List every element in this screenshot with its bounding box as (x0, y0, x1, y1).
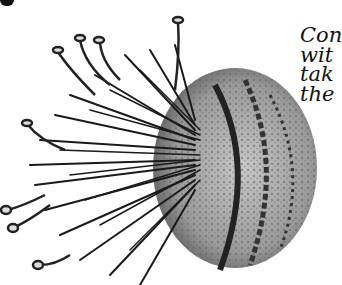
creature-body (153, 68, 317, 270)
caption-line: the (300, 85, 342, 105)
caption-text: Con wit tak the (300, 26, 342, 104)
